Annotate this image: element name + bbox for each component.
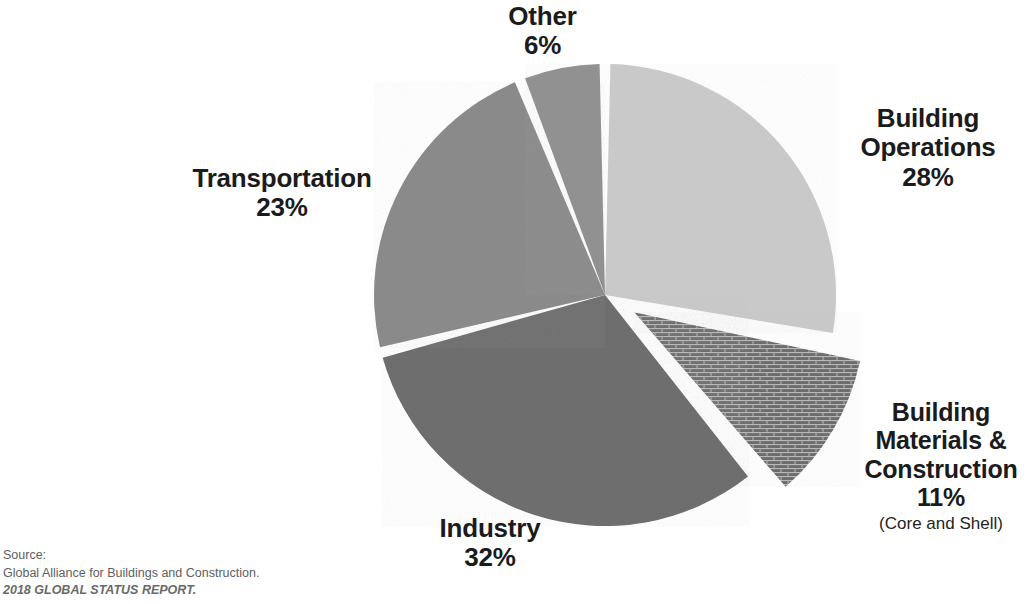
slice-label-other: Other 6% <box>455 2 630 61</box>
slice-label-building-operations-name: Building Operations <box>820 104 1036 163</box>
slice-label-building-materials-name: Building Materials & Construction <box>846 398 1036 483</box>
slice-label-building-operations: Building Operations 28% <box>820 104 1036 192</box>
slice-label-building-operations-value: 28% <box>820 163 1036 192</box>
source-line-1: Source: <box>3 547 259 565</box>
source-attribution: Source: Global Alliance for Buildings an… <box>3 547 259 600</box>
slice-label-building-materials-sublabel: (Core and Shell) <box>846 514 1036 533</box>
slice-label-transportation: Transportation 23% <box>158 164 406 223</box>
slice-label-industry: Industry 32% <box>378 514 602 573</box>
slice-label-industry-name: Industry <box>378 514 602 543</box>
slice-label-other-value: 6% <box>455 31 630 60</box>
slice-label-other-name: Other <box>455 2 630 31</box>
source-line-3: 2018 GLOBAL STATUS REPORT. <box>3 582 259 600</box>
slice-label-industry-value: 32% <box>378 543 602 572</box>
slice-label-building-materials-value: 11% <box>846 483 1036 511</box>
pie-chart-figure: Other 6% Building Operations 28% Transpo… <box>0 0 1036 604</box>
slice-label-building-materials: Building Materials & Construction 11% (C… <box>846 398 1036 533</box>
slice-label-transportation-value: 23% <box>158 193 406 222</box>
pie-slices-group <box>374 64 860 526</box>
slice-label-transportation-name: Transportation <box>158 164 406 193</box>
source-line-2: Global Alliance for Buildings and Constr… <box>3 565 259 583</box>
pie-slice-building-operations <box>605 64 836 333</box>
